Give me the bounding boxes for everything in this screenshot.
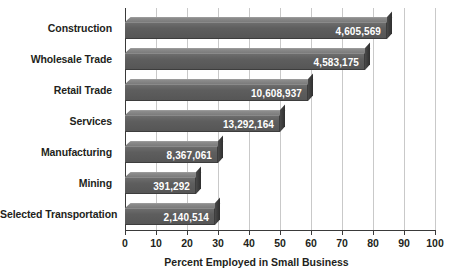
bar-front-face: 2,140,514 — [125, 208, 215, 225]
x-tick-80 — [373, 230, 374, 235]
bar-construction: 4,605,569 — [125, 17, 387, 39]
gridline-100 — [435, 8, 436, 230]
category-label-manufacturing: Manufacturing — [0, 147, 112, 158]
plot-area: 4,605,569 4,583,175 10,608,937 13,292,16… — [125, 8, 435, 230]
bar-value-label: 4,605,569 — [336, 25, 381, 36]
x-tick-label-80: 80 — [358, 237, 388, 249]
bar-manufacturing: 8,367,061 — [125, 141, 218, 163]
gridline-60 — [311, 8, 312, 230]
x-tick-label-30: 30 — [203, 237, 233, 249]
x-tick-70 — [342, 230, 343, 235]
bar-value-label: 4,583,175 — [314, 56, 359, 67]
bar-front-face: 8,367,061 — [125, 146, 218, 163]
bar-selected-transportation: 2,140,514 — [125, 203, 215, 225]
bar-value-label: 13,292,164 — [223, 118, 274, 129]
gridline-90 — [404, 8, 405, 230]
bar-value-label: 2,140,514 — [164, 211, 209, 222]
x-tick-20 — [187, 230, 188, 235]
bar-side-face — [387, 11, 392, 39]
x-tick-label-0: 0 — [110, 237, 140, 249]
gridline-70 — [342, 8, 343, 230]
bar-side-face — [196, 166, 201, 194]
x-tick-label-40: 40 — [234, 237, 264, 249]
x-tick-label-10: 10 — [141, 237, 171, 249]
bar-front-face: 4,583,175 — [125, 53, 365, 70]
bar-retail-trade: 10,608,937 — [125, 79, 308, 101]
category-label-construction: Construction — [0, 23, 112, 34]
category-label-services: Services — [0, 116, 112, 127]
x-tick-label-20: 20 — [172, 237, 202, 249]
bar-front-face: 10,608,937 — [125, 84, 308, 101]
bar-front-face: 391,292 — [125, 177, 196, 194]
bar-front-face: 13,292,164 — [125, 115, 280, 132]
x-axis-title: Percent Employed in Small Business — [164, 256, 348, 268]
x-tick-60 — [311, 230, 312, 235]
x-tick-label-90: 90 — [389, 237, 419, 249]
x-tick-10 — [156, 230, 157, 235]
bar-value-label: 391,292 — [153, 180, 190, 191]
x-tick-label-50: 50 — [265, 237, 295, 249]
x-tick-90 — [404, 230, 405, 235]
x-tick-40 — [249, 230, 250, 235]
bar-mining: 391,292 — [125, 172, 196, 194]
x-tick-label-100: 100 — [420, 237, 450, 249]
bar-side-face — [218, 135, 223, 163]
x-tick-label-60: 60 — [296, 237, 326, 249]
bar-wholesale-trade: 4,583,175 — [125, 48, 365, 70]
bar-chart: Construction Wholesale Trade Retail Trad… — [0, 0, 457, 277]
category-axis-labels: Construction Wholesale Trade Retail Trad… — [0, 8, 118, 230]
bar-side-face — [308, 73, 313, 101]
x-axis-title-row: Percent Employed in Small Business — [0, 256, 457, 268]
x-tick-50 — [280, 230, 281, 235]
category-label-mining: Mining — [0, 178, 112, 189]
category-label-wholesale-trade: Wholesale Trade — [0, 54, 112, 65]
gridline-80 — [373, 8, 374, 230]
x-tick-0 — [125, 230, 126, 235]
category-label-retail-trade: Retail Trade — [0, 85, 112, 96]
bar-side-face — [365, 42, 370, 70]
bar-front-face: 4,605,569 — [125, 22, 387, 39]
category-label-selected-transportation: Selected Transportation — [0, 209, 112, 220]
bar-value-label: 10,608,937 — [251, 87, 302, 98]
x-tick-30 — [218, 230, 219, 235]
x-tick-label-70: 70 — [327, 237, 357, 249]
bar-side-face — [280, 104, 285, 132]
bar-services: 13,292,164 — [125, 110, 280, 132]
x-tick-100 — [435, 230, 436, 235]
bar-value-label: 8,367,061 — [167, 149, 212, 160]
bar-side-face — [215, 197, 220, 225]
